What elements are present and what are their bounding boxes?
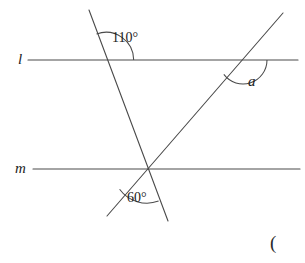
line-m-label: m	[15, 161, 26, 176]
stray-paren-label: (	[270, 233, 276, 252]
angle-110-label: 110°	[112, 31, 138, 45]
geometry-figure: l m 110° 60° a (	[0, 0, 305, 263]
angle-arc-a	[224, 60, 267, 84]
angle-a-label: a	[248, 74, 256, 89]
line-l-label: l	[18, 52, 22, 67]
angle-60-label: 60°	[127, 191, 147, 205]
geometry-canvas	[0, 0, 305, 263]
